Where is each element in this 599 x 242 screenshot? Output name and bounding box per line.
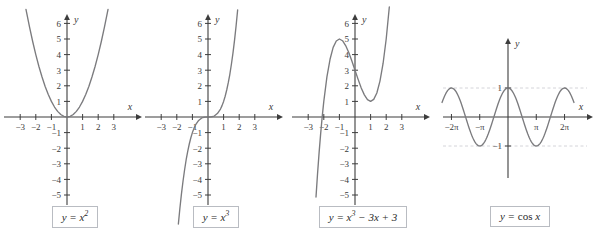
caption-wrap-x-cubed: y = x3 (141, 206, 291, 228)
plot-area-x-squared: xy−3−2−1123−5−4−3−2−1123456 (0, 0, 150, 205)
caption-tail-text: − 3x + 3 (355, 211, 397, 223)
caption-wrap-cubic-poly: y = x3 − 3x + 3 (288, 206, 438, 228)
graph-x-squared: xy−3−2−1123−5−4−3−2−1123456 (0, 0, 150, 205)
y-axis-tick-label: 5 (198, 34, 203, 44)
caption-cubic-poly: y = x3 − 3x + 3 (319, 206, 407, 228)
panel-cosine: xy−2π−ππ2π−11 y = cos x (441, 0, 591, 242)
y-axis-tick-label: 2 (57, 81, 62, 91)
x-axis-tick-label: 1 (221, 122, 226, 132)
plot-area-x-cubed: xy−3−2−1123−5−4−3−2−1123456 (141, 0, 291, 205)
x-axis-arrowhead (277, 114, 283, 120)
x-axis-tick-label: −π (475, 122, 485, 132)
y-axis-tick-label: 1 (498, 83, 503, 93)
y-axis-tick-label: 3 (198, 66, 203, 76)
y-axis-tick-label: 3 (345, 66, 350, 76)
caption-base-text: y = x (203, 211, 226, 223)
x-axis-tick-label: 3 (400, 122, 405, 132)
x-axis-tick-label: −3 (156, 122, 166, 132)
graph-cubic-poly: xy−3−2−1123−5−4−3−2−1123456 (288, 0, 438, 205)
y-axis-tick-label: −2 (339, 144, 349, 154)
y-axis-label: y (73, 14, 79, 25)
x-axis-tick-label: 1 (368, 122, 373, 132)
y-axis-tick-label: 4 (57, 50, 62, 60)
caption-base-text: y = x (62, 211, 85, 223)
y-axis-tick-label: 1 (57, 97, 62, 107)
y-axis-tick-label: 3 (57, 66, 62, 76)
caption-exponent: 3 (225, 209, 229, 218)
y-axis-arrowhead (64, 14, 70, 20)
y-axis-label: y (214, 14, 220, 25)
y-axis-tick-label: 4 (198, 50, 203, 60)
graph-x-cubed: xy−3−2−1123−5−4−3−2−1123456 (141, 0, 291, 205)
plot-area-cubic-poly: xy−3−2−1123−5−4−3−2−1123456 (288, 0, 438, 205)
y-axis-label: y (361, 14, 367, 25)
y-axis-tick-label: −5 (192, 190, 202, 200)
x-axis-tick-label: 2 (237, 122, 242, 132)
y-axis-tick-label: 5 (57, 34, 62, 44)
y-axis-arrowhead (205, 14, 211, 20)
y-axis-tick-label: −1 (492, 141, 502, 151)
panel-x-cubed: xy−3−2−1123−5−4−3−2−1123456 y = x3 (141, 0, 291, 242)
x-axis-label: x (578, 101, 584, 112)
caption-wrap-x-squared: y = x2 (0, 206, 150, 228)
y-axis-tick-label: −2 (192, 144, 202, 154)
caption-x-cubed: y = x3 (193, 206, 240, 228)
x-axis-tick-label: −3 (303, 122, 313, 132)
x-axis-tick-label: 3 (253, 122, 258, 132)
x-axis-arrowhead (424, 114, 430, 120)
x-axis-arrowhead (587, 114, 593, 120)
x-axis-label: x (127, 101, 133, 112)
y-axis-tick-label: 1 (198, 97, 203, 107)
caption-base-text: y = (500, 210, 518, 222)
x-axis-tick-label: 3 (112, 122, 117, 132)
y-axis-label: y (514, 38, 520, 49)
y-axis-arrowhead (505, 38, 511, 44)
x-axis-tick-label: π (534, 122, 539, 132)
y-axis-tick-label: −3 (51, 159, 61, 169)
y-axis-tick-label: 2 (198, 81, 203, 91)
x-axis-tick-label: 2 (96, 122, 101, 132)
curve-path (316, 7, 389, 197)
caption-exponent: 2 (84, 209, 88, 218)
caption-cosine: y = cos x (490, 206, 550, 227)
y-axis-tick-label: −1 (51, 128, 61, 138)
x-axis-tick-label: 2π (560, 122, 570, 132)
x-axis-tick-label: −2π (444, 122, 459, 132)
plot-area-cosine: xy−2π−ππ2π−11 (441, 0, 591, 205)
y-axis-tick-label: 1 (345, 97, 350, 107)
y-axis-tick-label: 6 (57, 19, 62, 29)
y-axis-tick-label: −3 (192, 159, 202, 169)
y-axis-tick-label: 6 (345, 19, 350, 29)
x-axis-tick-label: −2 (172, 122, 182, 132)
y-axis-tick-label: 6 (198, 19, 203, 29)
y-axis-arrowhead (352, 14, 358, 20)
y-axis-tick-label: −4 (339, 175, 349, 185)
y-axis-tick-label: −4 (51, 175, 61, 185)
y-axis-tick-label: −4 (192, 175, 202, 185)
caption-base-text: y = x (329, 211, 352, 223)
y-axis-tick-label: −1 (339, 128, 349, 138)
y-axis-tick-label: 2 (345, 81, 350, 91)
y-axis-tick-label: −3 (339, 159, 349, 169)
x-axis-tick-label: −2 (31, 122, 41, 132)
x-axis-tick-label: 2 (384, 122, 389, 132)
x-axis-label: x (415, 101, 421, 112)
figure-four-graphs: xy−3−2−1123−5−4−3−2−1123456 y = x2 xy−3−… (0, 0, 599, 242)
panel-cubic-poly: xy−3−2−1123−5−4−3−2−1123456 y = x3 − 3x … (288, 0, 438, 242)
x-axis-tick-label: −3 (15, 122, 25, 132)
y-axis-tick-label: −2 (51, 144, 61, 154)
panel-x-squared: xy−3−2−1123−5−4−3−2−1123456 y = x2 (0, 0, 150, 242)
x-axis-label: x (268, 101, 274, 112)
y-axis-tick-label: −5 (51, 190, 61, 200)
caption-x-squared: y = x2 (52, 206, 99, 228)
y-axis-tick-label: 5 (345, 34, 350, 44)
x-axis-tick-label: 1 (80, 122, 85, 132)
caption-wrap-cosine: y = cos x (441, 206, 599, 227)
y-axis-tick-label: −5 (339, 190, 349, 200)
caption-function-name: cos (518, 210, 533, 222)
graph-cosine: xy−2π−ππ2π−11 (441, 0, 599, 205)
caption-tail-text: x (532, 210, 540, 222)
